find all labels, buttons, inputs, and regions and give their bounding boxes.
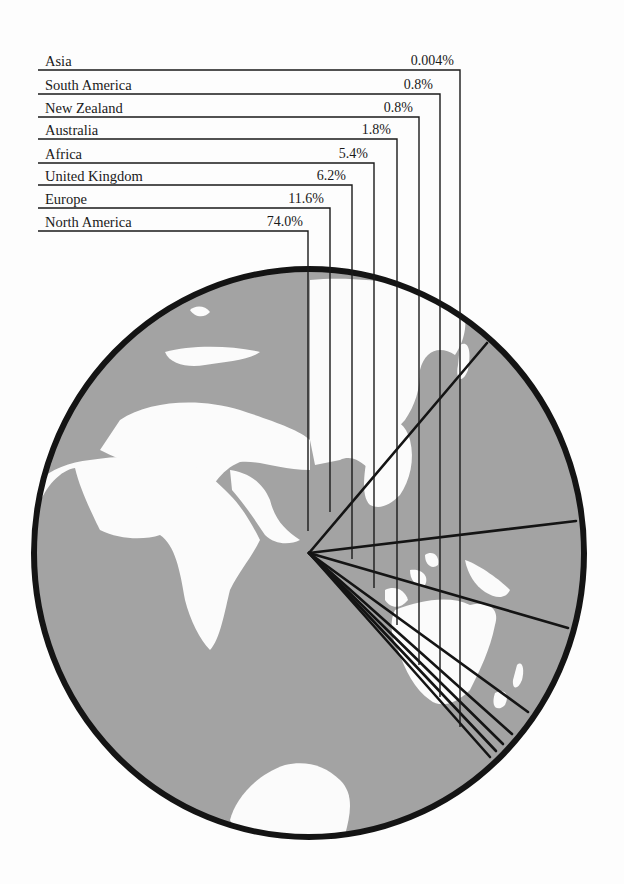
label-united-kingdom: United Kingdom [45, 168, 144, 184]
label-asia: Asia [45, 53, 72, 69]
value-australia: 1.8% [362, 122, 392, 137]
value-asia: 0.004% [411, 53, 455, 68]
value-north-america: 74.0% [267, 214, 304, 229]
label-south-america: South America [45, 77, 132, 93]
value-united-kingdom: 6.2% [317, 168, 347, 183]
label-australia: Australia [45, 122, 99, 138]
value-africa: 5.4% [339, 146, 369, 161]
label-europe: Europe [45, 191, 87, 207]
value-europe: 11.6% [288, 191, 324, 206]
value-new-zealand: 0.8% [384, 100, 414, 115]
category-labels: Asia South America New Zealand Australia… [45, 53, 144, 230]
label-africa: Africa [45, 146, 83, 162]
pie-chart: Asia South America New Zealand Australia… [0, 0, 624, 884]
label-north-america: North America [45, 214, 132, 230]
label-new-zealand: New Zealand [45, 100, 123, 116]
value-labels: 0.004% 0.8% 0.8% 1.8% 5.4% 6.2% 11.6% 74… [267, 53, 455, 229]
value-south-america: 0.8% [404, 77, 434, 92]
